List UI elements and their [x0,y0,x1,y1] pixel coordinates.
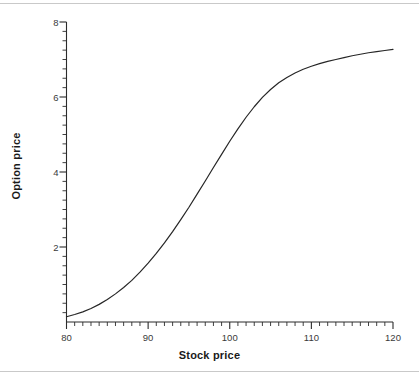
x-tick-label: 120 [385,332,401,343]
x-tick-label: 110 [304,332,319,343]
y-tick-label: 2 [41,242,59,253]
y-axis-title: Option price [10,116,22,216]
y-tick-label: 8 [41,17,59,28]
x-axis-title: Stock price [0,349,419,361]
y-axis-ticks [60,22,67,313]
data-line-option-price [67,49,394,316]
x-tick-label: 90 [143,332,154,343]
axis-spines [67,22,394,322]
figure-container: Option price Stock price 809010011012024… [0,0,419,382]
y-tick-label: 6 [41,92,59,103]
y-tick-label: 4 [41,167,59,178]
x-tick-label: 80 [61,332,72,343]
x-axis-ticks [67,322,394,329]
plot-area [0,0,419,382]
x-tick-label: 100 [222,332,238,343]
